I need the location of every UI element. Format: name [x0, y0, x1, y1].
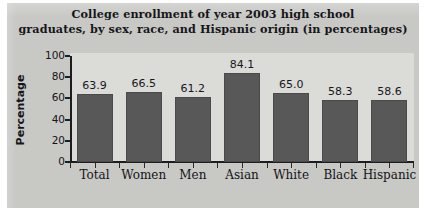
- bar: [224, 73, 260, 162]
- y-tick-label: 40: [37, 113, 65, 125]
- bar: [175, 97, 211, 162]
- y-tick-label-wrap: 100: [30, 49, 65, 61]
- y-tick-label: 20: [37, 134, 65, 146]
- y-tick-label-wrap: 80: [30, 70, 65, 82]
- y-tick-label-wrap: 40: [30, 113, 65, 125]
- y-tick-label: 0: [37, 155, 65, 167]
- y-tick-label-wrap: 20: [30, 134, 65, 146]
- bar: [126, 92, 162, 162]
- y-tick-mark: [65, 140, 70, 142]
- x-category-label: Hispanic: [349, 168, 429, 182]
- bar-value-label: 58.6: [359, 85, 419, 98]
- y-tick-mark: [65, 97, 70, 99]
- y-tick-label: 60: [37, 91, 65, 103]
- bar-value-label: 61.2: [163, 82, 223, 95]
- bar: [371, 100, 407, 162]
- y-tick-mark: [65, 76, 70, 78]
- y-tick-label-wrap: 60: [30, 91, 65, 103]
- y-axis-label: Percentage: [14, 62, 30, 158]
- chart-title-line-1: College enrollment of year 2003 high sch…: [7, 7, 419, 22]
- y-tick-mark: [65, 55, 70, 57]
- chart-title-line-2: graduates, by sex, race, and Hispanic or…: [7, 22, 419, 37]
- chart-title: College enrollment of year 2003 high sch…: [7, 7, 419, 36]
- y-tick-mark: [65, 119, 70, 121]
- bar: [77, 94, 113, 162]
- bar: [273, 93, 309, 162]
- bar-chart-figure: College enrollment of year 2003 high sch…: [0, 0, 433, 208]
- y-tick-label-wrap: 0: [30, 155, 65, 167]
- y-axis-line: [70, 56, 72, 163]
- bar: [322, 100, 358, 162]
- y-tick-label: 100: [37, 49, 65, 61]
- bar-value-label: 84.1: [212, 58, 272, 71]
- y-tick-label: 80: [37, 70, 65, 82]
